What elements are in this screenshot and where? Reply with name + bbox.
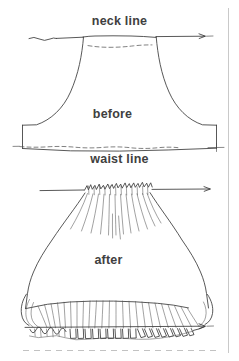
label-before: before <box>0 107 225 121</box>
diagram-page: .ink { fill:none; stroke:#3a3a3a; stroke… <box>0 0 239 361</box>
after-neck-line-guide <box>40 187 210 192</box>
neck-stitch-dashes <box>88 45 152 47</box>
label-waist-line: waist line <box>0 152 239 166</box>
hem-left-fold <box>21 294 38 327</box>
label-after: after <box>0 253 217 267</box>
hem-ruffle <box>30 327 205 340</box>
before-garment <box>13 34 224 152</box>
gathered-neck-band <box>85 182 153 195</box>
neck-gather-lines <box>71 193 162 239</box>
waist-line-guide <box>13 144 224 152</box>
sewing-diagram-svg: .ink { fill:none; stroke:#3a3a3a; stroke… <box>0 0 239 361</box>
neck-line-guide <box>29 34 213 41</box>
hem-right-fold <box>200 295 213 326</box>
label-neck-line: neck line <box>0 14 239 28</box>
after-hem-line-guide <box>25 324 214 329</box>
